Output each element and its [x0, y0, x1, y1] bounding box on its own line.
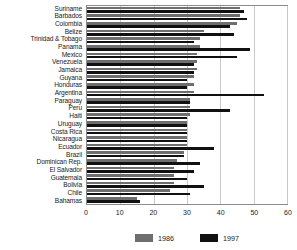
bar-1997	[87, 101, 190, 104]
bar-group	[87, 97, 287, 105]
category-label: Ecuador	[0, 143, 84, 151]
bar-1997	[87, 63, 194, 66]
bar-1986	[87, 106, 190, 109]
bar-group	[87, 189, 287, 197]
bar-1997	[87, 170, 194, 173]
bar-group	[87, 151, 287, 159]
bar-1997	[87, 200, 140, 203]
bar-1986	[87, 83, 194, 86]
bar-1986	[87, 151, 184, 154]
bar-group	[87, 67, 287, 75]
bar-1986	[87, 182, 174, 185]
x-tick-label: 50	[250, 209, 258, 216]
bar-1986	[87, 174, 174, 177]
legend-label: 1986	[158, 234, 174, 243]
bar-group	[87, 158, 287, 166]
legend-swatch-icon	[200, 234, 218, 242]
bar-1986	[87, 189, 170, 192]
bar-1997	[87, 185, 204, 188]
category-label: Uruguay	[0, 120, 84, 128]
bar-1997	[87, 25, 230, 28]
bar-1986	[87, 14, 240, 17]
bar-group	[87, 196, 287, 204]
bar-1986	[87, 75, 194, 78]
bar-1997	[87, 48, 250, 51]
legend-label: 1997	[223, 234, 239, 243]
bar-group	[87, 14, 287, 22]
bar-rows	[87, 6, 287, 204]
bar-group	[87, 59, 287, 67]
legend-item[interactable]: 1997	[200, 234, 239, 243]
bar-1986	[87, 129, 187, 132]
x-tick-label: 10	[116, 209, 124, 216]
bar-group	[87, 135, 287, 143]
bar-1997	[87, 94, 264, 97]
bar-group	[87, 181, 287, 189]
bar-1986	[87, 98, 190, 101]
bar-group	[87, 90, 287, 98]
bar-1986	[87, 159, 177, 162]
legend-item[interactable]: 1986	[135, 234, 174, 243]
bar-1986	[87, 68, 197, 71]
bar-1997	[87, 162, 200, 165]
x-tick-label: 30	[183, 209, 191, 216]
bar-1997	[87, 178, 187, 181]
bar-1997	[87, 33, 234, 36]
bar-group	[87, 36, 287, 44]
category-label: Bahamas	[0, 197, 84, 205]
bar-1997	[87, 18, 247, 21]
bar-1986	[87, 197, 137, 200]
bar-group	[87, 113, 287, 121]
bar-1997	[87, 71, 194, 74]
bar-1986	[87, 60, 197, 63]
value-axis: 0102030405060	[86, 205, 288, 221]
x-tick-label: 60	[284, 209, 292, 216]
gridline	[287, 6, 288, 204]
category-label: El Salvador	[0, 166, 84, 174]
bar-1997	[87, 109, 230, 112]
bar-1986	[87, 113, 190, 116]
bar-1997	[87, 132, 187, 135]
bar-group	[87, 74, 287, 82]
bar-1986	[87, 144, 187, 147]
bar-1986	[87, 91, 194, 94]
bar-1986	[87, 136, 187, 139]
category-label: Colombia	[0, 20, 84, 28]
bar-group	[87, 29, 287, 37]
bar-group	[87, 105, 287, 113]
bar-group	[87, 166, 287, 174]
bar-1997	[87, 56, 237, 59]
bar-1997	[87, 10, 244, 13]
bar-group	[87, 143, 287, 151]
bar-1986	[87, 22, 237, 25]
bar-1997	[87, 193, 190, 196]
bar-1997	[87, 117, 187, 120]
bar-chart: SurinameBarbadosColombiaBelizeTrinidad &…	[0, 0, 297, 250]
bar-1997	[87, 79, 187, 82]
bar-group	[87, 44, 287, 52]
bar-1986	[87, 121, 187, 124]
bar-group	[87, 82, 287, 90]
bar-1986	[87, 167, 174, 170]
chart-legend: 19861997	[86, 230, 288, 246]
bar-1997	[87, 147, 214, 150]
bar-group	[87, 52, 287, 60]
category-axis-labels: SurinameBarbadosColombiaBelizeTrinidad &…	[0, 5, 84, 205]
bar-1997	[87, 155, 184, 158]
bar-1997	[87, 124, 187, 127]
category-label: Panama	[0, 43, 84, 51]
bar-1997	[87, 140, 187, 143]
bar-group	[87, 120, 287, 128]
bar-1986	[87, 53, 197, 56]
bar-group	[87, 173, 287, 181]
bar-1997	[87, 41, 194, 44]
bar-1997	[87, 86, 187, 89]
x-tick-label: 0	[84, 209, 88, 216]
x-tick-label: 40	[217, 209, 225, 216]
bar-group	[87, 6, 287, 14]
bar-group	[87, 128, 287, 136]
bar-1986	[87, 37, 200, 40]
bar-1986	[87, 7, 240, 10]
bar-group	[87, 21, 287, 29]
plot-area	[86, 5, 288, 205]
